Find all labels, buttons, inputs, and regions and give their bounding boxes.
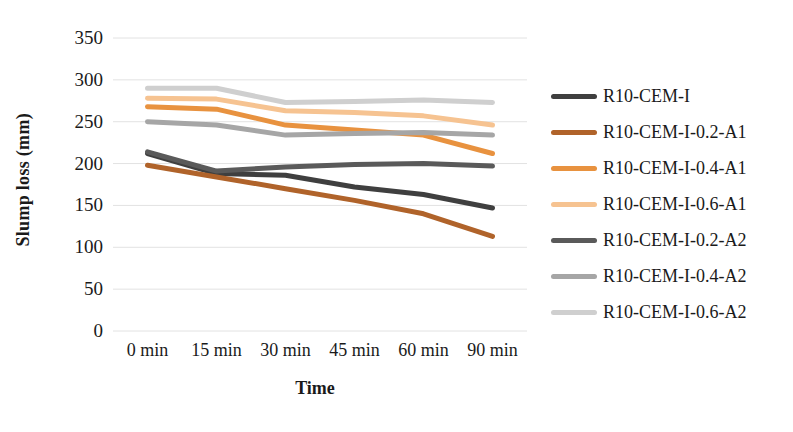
y-tick-label: 150	[53, 195, 103, 214]
legend-item[interactable]: R10-CEM-I-0.4-A1	[551, 150, 789, 186]
x-tick-label: 30 min	[251, 341, 320, 359]
series-line-0	[148, 154, 493, 208]
legend-item[interactable]: R10-CEM-I-0.6-A2	[551, 294, 789, 330]
legend-item-label: R10-CEM-I-0.4-A2	[603, 267, 746, 285]
legend-item[interactable]: R10-CEM-I-0.4-A2	[551, 258, 789, 294]
y-tick-label: 0	[53, 321, 103, 340]
y-tick-label: 350	[53, 28, 103, 47]
y-tick-label: 250	[53, 112, 103, 131]
x-tick-label: 90 min	[458, 341, 527, 359]
y-tick-label: 50	[53, 279, 103, 298]
y-tick-label: 100	[53, 237, 103, 256]
y-tick-label: 300	[53, 70, 103, 89]
legend-color-swatch	[551, 202, 597, 207]
x-tick-label: 45 min	[320, 341, 389, 359]
legend-item-label: R10-CEM-I-0.2-A1	[603, 123, 746, 141]
x-axis-title-text: Time	[295, 378, 335, 398]
legend-item[interactable]: R10-CEM-I-0.2-A2	[551, 222, 789, 258]
chart-legend: R10-CEM-IR10-CEM-I-0.2-A1R10-CEM-I-0.4-A…	[551, 78, 789, 330]
x-tick-label: 15 min	[182, 341, 251, 359]
legend-color-swatch	[551, 94, 597, 99]
x-tick-label: 0 min	[113, 341, 182, 359]
series-line-1	[148, 165, 493, 236]
series-line-4	[148, 152, 493, 171]
slump-loss-line-chart: Slump loss (mm) 050100150200250300350 0 …	[0, 0, 793, 432]
legend-item[interactable]: R10-CEM-I-0.6-A1	[551, 186, 789, 222]
legend-item[interactable]: R10-CEM-I	[551, 78, 789, 114]
legend-color-swatch	[551, 166, 597, 171]
legend-item[interactable]: R10-CEM-I-0.2-A1	[551, 114, 789, 150]
x-tick-label: 60 min	[389, 341, 458, 359]
legend-color-swatch	[551, 310, 597, 315]
legend-color-swatch	[551, 130, 597, 135]
plot-area	[0, 0, 560, 370]
legend-item-label: R10-CEM-I-0.4-A1	[603, 159, 746, 177]
legend-item-label: R10-CEM-I	[603, 87, 690, 105]
legend-item-label: R10-CEM-I-0.6-A1	[603, 195, 746, 213]
plot-svg	[0, 0, 560, 370]
legend-color-swatch	[551, 238, 597, 243]
legend-color-swatch	[551, 274, 597, 279]
x-axis-title: Time	[100, 378, 530, 399]
y-tick-label: 200	[53, 154, 103, 173]
legend-item-label: R10-CEM-I-0.2-A2	[603, 231, 746, 249]
legend-item-label: R10-CEM-I-0.6-A2	[603, 303, 746, 321]
